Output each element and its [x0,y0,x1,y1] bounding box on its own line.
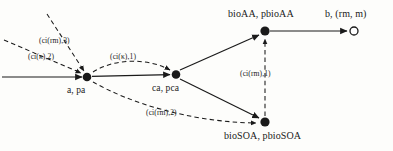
edge-ca-to-bioAA [180,35,259,70]
node-label-bioAA: bioAA, pbioAA [228,9,294,19]
node-b-terminal [350,27,358,35]
node-label-bioSOA: bioSOA, pbioSOA [224,131,301,141]
node-label-ca: ca, pca [152,84,179,94]
node-ca [172,70,181,79]
edge-label-ci-rm-3: (ci(rm),3) [39,37,70,45]
node-label-a: a, pa [67,86,85,96]
edge-label-ci-rm-2: (ci(rm),2) [146,109,177,117]
node-bioSOA [260,117,269,126]
diagram-graphics [0,0,393,151]
edge-label-ci-kappa-2: (ci(κ),2) [28,53,54,61]
node-bioAA [260,26,269,35]
node-a [83,73,92,82]
node-label-b: b, (rm, m) [325,9,367,19]
edge-label-ci-kappa-1: (ci(κ),1) [110,53,136,61]
edge-label-ci-rm-1: (ci(rm),1) [240,70,271,78]
diagram-canvas: a, pa ca, pca bioAA, pbioAA bioSOA, pbio… [0,0,393,151]
edge-a-to-ca [92,75,170,77]
edge-a-to-ca-dashed [93,61,170,72]
edge-ca-to-bioSOA [180,79,259,118]
